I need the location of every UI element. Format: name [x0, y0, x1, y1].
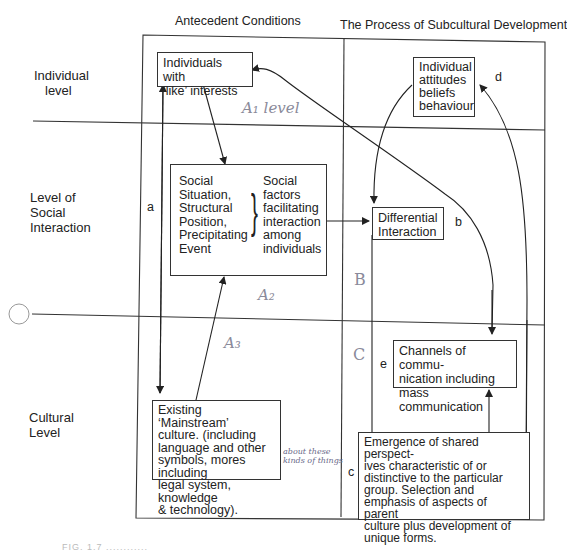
figure-caption: FIG. 1.7 ............: [62, 542, 148, 550]
box-attitudes: Individual attitudes beliefs behaviour: [413, 57, 475, 117]
path-label-a: a: [147, 200, 154, 214]
handwritten-margin-note: about these kinds of things: [283, 447, 343, 465]
box-mainstream-culture: Existing ‘Mainstream’ culture. (includin…: [152, 400, 281, 480]
path-label-b: b: [455, 215, 462, 229]
box-social-situation: Social Situation, Structural Position, P…: [170, 164, 327, 276]
box-channels-communication: Channels of commu- nication including ma…: [393, 340, 517, 388]
row-label-individual: Individual level: [34, 68, 89, 98]
brace-icon: }: [251, 171, 258, 251]
social-situation-list: Social Situation, Structural Position, P…: [179, 175, 248, 256]
box-emergence-perspectives: Emergence of shared perspect- ives chara…: [358, 432, 530, 520]
row-label-social: Level of Social Interaction: [30, 190, 91, 235]
path-label-e: e: [380, 357, 387, 371]
handwritten-a3: A₃: [224, 334, 241, 352]
row-label-cultural: Cultural Level: [29, 410, 74, 440]
social-factors-list: Social factors facilitating interaction …: [263, 175, 321, 256]
hole-punch-circle: [9, 304, 29, 324]
handwritten-a1-level: A₁ level: [242, 99, 299, 117]
arrow-mainstream-to-social: [196, 277, 224, 400]
row-divider-2: [32, 314, 545, 325]
box-differential-interaction: Differential Interaction: [372, 207, 444, 240]
column-divider: [341, 38, 344, 517]
handwritten-b: B: [354, 270, 366, 289]
column-header-antecedent: Antecedent Conditions: [175, 14, 301, 28]
handwritten-a2: A₂: [258, 286, 275, 304]
column-header-process: The Process of Subcultural Development: [340, 18, 567, 32]
box-like-interests: Individuals with ‘like’ interests: [157, 52, 253, 87]
handwritten-c: C: [353, 345, 365, 364]
row-divider-1: [33, 121, 545, 130]
path-label-d: d: [495, 70, 502, 84]
path-label-c: c: [348, 465, 354, 479]
arrow-attitudes-to-differential: [374, 85, 412, 203]
